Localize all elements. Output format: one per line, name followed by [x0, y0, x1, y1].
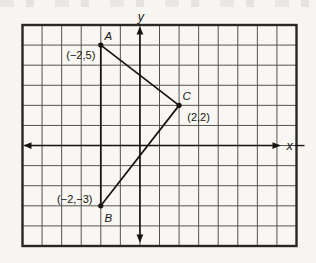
point-label-A: A	[103, 30, 112, 42]
figure-page: yxA(−2,5)C(2,2)B(−2,−3)	[0, 0, 316, 263]
point-label-B: B	[104, 212, 112, 224]
coordinate-plane-figure: yxA(−2,5)C(2,2)B(−2,−3)	[0, 0, 316, 263]
coord-label-B: (−2,−3)	[57, 193, 92, 205]
point-dot-C	[176, 103, 181, 108]
point-dot-A	[98, 42, 103, 47]
coord-label-C: (2,2)	[187, 111, 210, 123]
coord-label-A: (−2,5)	[66, 49, 95, 61]
point-dot-B	[98, 203, 103, 208]
grid	[23, 25, 297, 246]
y-axis-label: y	[137, 10, 145, 24]
point-label-C: C	[182, 90, 191, 102]
x-axis-label: x	[285, 139, 293, 153]
